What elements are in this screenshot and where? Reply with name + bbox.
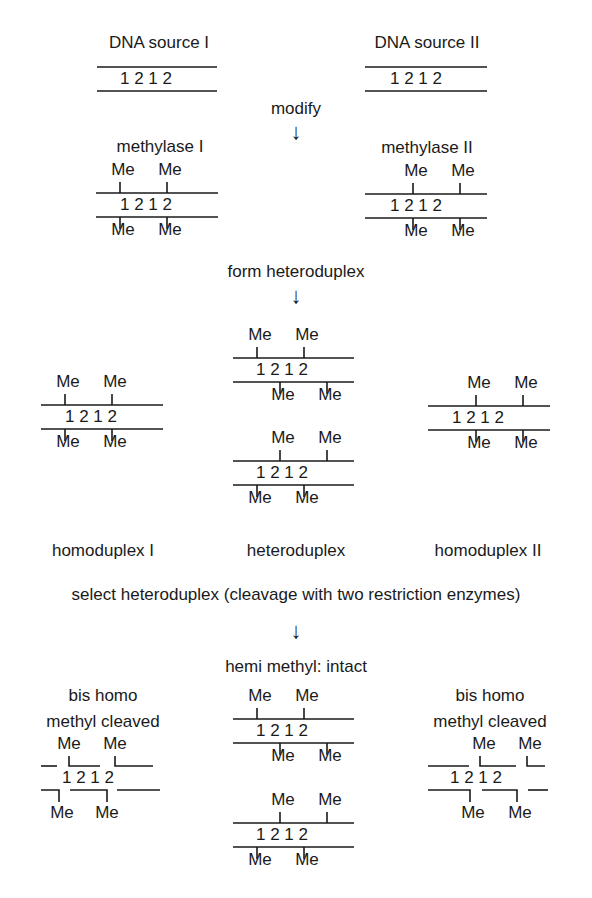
- methyl-group-label: Me: [271, 747, 295, 765]
- dna-source-1-label: DNA source I: [109, 33, 209, 53]
- site-sequence: 1 2 1 2: [256, 464, 308, 482]
- methyl-group-label: Me: [158, 161, 182, 179]
- methyl-group-label: Me: [451, 222, 475, 240]
- bis-homo-2-label-line2: methyl cleaved: [433, 712, 546, 732]
- methyl-group-label: Me: [295, 489, 319, 507]
- site-sequence: 1 2 1 2: [120, 196, 172, 214]
- down-arrow-icon: ↓: [291, 285, 302, 307]
- methyl-group-label: Me: [248, 687, 272, 705]
- site-sequence: 1 2 1 2: [256, 722, 308, 740]
- down-arrow-icon: ↓: [291, 620, 302, 642]
- methyl-group-label: Me: [404, 162, 428, 180]
- methyl-group-label: Me: [318, 791, 342, 809]
- methyl-group-label: Me: [103, 373, 127, 391]
- methyl-group-label: Me: [248, 851, 272, 869]
- hemi-methyl-intact-label: hemi methyl: intact: [225, 657, 367, 677]
- site-sequence: 1 2 1 2: [256, 826, 308, 844]
- methyl-group-label: Me: [467, 374, 491, 392]
- dna-source-2-label: DNA source II: [375, 33, 480, 53]
- methyl-group-label: Me: [461, 804, 485, 822]
- methyl-group-label: Me: [514, 374, 538, 392]
- site-sequence: 1 2 1 2: [120, 70, 172, 88]
- methylase-1-label: methylase I: [117, 137, 204, 157]
- site-sequence: 1 2 1 2: [65, 408, 117, 426]
- methyl-group-label: Me: [50, 804, 74, 822]
- methyl-group-label: Me: [514, 434, 538, 452]
- heteroduplex-label: heteroduplex: [247, 541, 345, 561]
- methyl-group-label: Me: [103, 433, 127, 451]
- methyl-group-label: Me: [57, 735, 81, 753]
- methyl-group-label: Me: [404, 222, 428, 240]
- site-sequence: 1 2 1 2: [450, 769, 502, 787]
- bis-homo-1-label-line2: methyl cleaved: [46, 712, 159, 732]
- methyl-group-label: Me: [295, 687, 319, 705]
- site-sequence: 1 2 1 2: [452, 409, 504, 427]
- select-heteroduplex-step-label: select heteroduplex (cleavage with two r…: [72, 585, 521, 605]
- site-sequence: 1 2 1 2: [390, 70, 442, 88]
- down-arrow-icon: ↓: [291, 121, 302, 143]
- methyl-group-label: Me: [295, 851, 319, 869]
- site-sequence: 1 2 1 2: [62, 769, 114, 787]
- methyl-group-label: Me: [271, 791, 295, 809]
- methyl-group-label: Me: [158, 221, 182, 239]
- form-heteroduplex-step-label: form heteroduplex: [227, 262, 364, 282]
- methyl-group-label: Me: [508, 804, 532, 822]
- modify-step-label: modify: [271, 99, 321, 119]
- homoduplex-2-label: homoduplex II: [435, 541, 542, 561]
- methyl-group-label: Me: [467, 434, 491, 452]
- methyl-group-label: Me: [95, 804, 119, 822]
- methylation-heteroduplex-diagram: DNA source I DNA source II modify ↓ meth…: [0, 0, 592, 898]
- methyl-group-label: Me: [318, 747, 342, 765]
- methyl-group-label: Me: [295, 326, 319, 344]
- site-sequence: 1 2 1 2: [390, 197, 442, 215]
- methyl-group-label: Me: [271, 386, 295, 404]
- methyl-group-label: Me: [111, 221, 135, 239]
- methyl-group-label: Me: [518, 735, 542, 753]
- methyl-group-label: Me: [451, 162, 475, 180]
- methylase-2-label: methylase II: [381, 138, 473, 158]
- methyl-group-label: Me: [318, 429, 342, 447]
- methyl-group-label: Me: [248, 489, 272, 507]
- bis-homo-1-label-line1: bis homo: [69, 686, 138, 706]
- homoduplex-1-label: homoduplex I: [52, 541, 154, 561]
- methyl-group-label: Me: [318, 386, 342, 404]
- bis-homo-2-label-line1: bis homo: [456, 686, 525, 706]
- methyl-group-label: Me: [103, 735, 127, 753]
- methyl-group-label: Me: [56, 433, 80, 451]
- methyl-group-label: Me: [248, 326, 272, 344]
- methyl-group-label: Me: [472, 735, 496, 753]
- methyl-group-label: Me: [271, 429, 295, 447]
- methyl-group-label: Me: [111, 161, 135, 179]
- methyl-group-label: Me: [56, 373, 80, 391]
- site-sequence: 1 2 1 2: [256, 361, 308, 379]
